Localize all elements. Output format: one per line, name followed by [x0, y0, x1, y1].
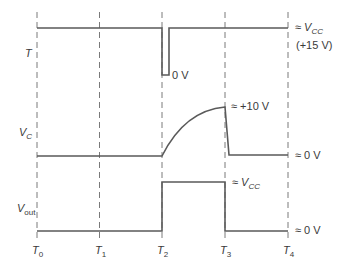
time-label-t1: T1 — [95, 245, 106, 256]
capacitor-name-sub: C — [26, 132, 32, 141]
t-var: T — [220, 244, 227, 256]
trigger-name: T — [25, 47, 32, 59]
time-label-t3: T3 — [220, 245, 231, 256]
vcc-sub: CC — [311, 27, 323, 36]
vcc-sub: CC — [248, 182, 260, 191]
t-var: T — [283, 244, 290, 256]
time-label-t4: T4 — [283, 245, 294, 256]
t-sub: 0 — [39, 250, 43, 259]
trigger-signal-label: T — [25, 48, 32, 59]
output-low-label: ≈ 0 V — [295, 225, 321, 236]
output-signal-label: Vout — [17, 203, 35, 214]
capacitor-low-label: ≈ 0 V — [295, 150, 321, 161]
time-label-t2: T2 — [157, 245, 168, 256]
trigger-high-label: ≈ VCC — [295, 22, 323, 33]
approx-symbol: ≈ — [295, 21, 301, 33]
capacitor-peak-label: ≈ +10 V — [231, 101, 269, 112]
trigger-waveform — [37, 28, 288, 75]
t-sub: 1 — [102, 250, 106, 259]
t-var: T — [95, 244, 102, 256]
trigger-low-label: 0 V — [172, 70, 189, 81]
capacitor-signal-label: VC — [19, 127, 32, 138]
approx-symbol: ≈ — [232, 176, 238, 188]
t-sub: 3 — [227, 250, 231, 259]
time-label-t0: T0 — [32, 245, 43, 256]
output-name-sub: out — [24, 208, 35, 217]
t-var: T — [32, 244, 39, 256]
trigger-high-value: (+15 V) — [296, 40, 332, 51]
t-sub: 4 — [290, 250, 294, 259]
output-high-label: ≈ VCC — [232, 177, 260, 188]
t-sub: 2 — [164, 250, 168, 259]
t-var: T — [157, 244, 164, 256]
